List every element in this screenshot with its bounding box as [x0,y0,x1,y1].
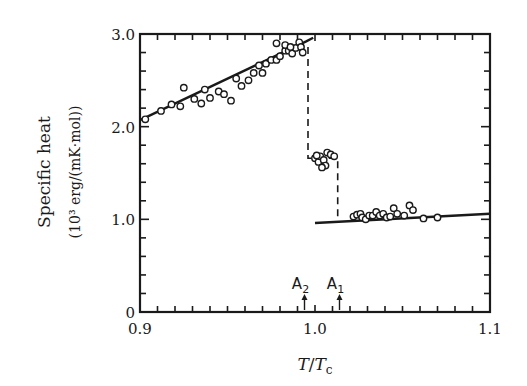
data-point [198,100,204,106]
transition-markers: A2A1 [292,275,344,310]
transition-label: A2 [292,275,309,296]
data-point [233,75,239,81]
x-tick-label: 0.9 [128,320,152,338]
data-point [394,211,400,217]
data-point [177,103,183,109]
data-point [300,49,306,55]
data-point [410,207,416,213]
x-axis-label: T/Tc [297,354,332,377]
data-point [251,70,257,76]
data-point [401,212,407,218]
fit-lines [140,38,490,223]
dashed-step-line [308,47,338,222]
plot-frame [140,34,490,312]
data-point [207,95,213,101]
data-point [228,98,234,104]
data-point [434,214,440,220]
data-point [238,83,244,89]
data-point [221,91,227,97]
data-point [319,164,325,170]
data-point [191,96,197,102]
data-point [287,44,293,50]
x-tick-label: 1.0 [303,320,327,338]
y-tick-label: 2.0 [111,119,135,137]
data-point [168,101,174,107]
y-axis-label: Specific heat [34,116,54,228]
data-points [142,39,441,222]
data-point [181,85,187,91]
data-point [256,62,262,68]
data-point [142,116,148,122]
data-point [245,77,251,83]
transition-label: A1 [327,275,344,296]
data-point [331,153,337,159]
x-axis-title: T/Tc [297,354,332,377]
data-point [273,40,279,46]
data-point [202,86,208,92]
data-point [158,108,164,114]
y-tick-label: 1.0 [111,211,135,229]
data-point [259,70,265,76]
data-point [277,53,283,59]
data-point [314,152,320,158]
data-point [420,215,426,221]
axis-ticks [140,34,490,312]
y-axis-units: (10³ erg/(mK·mol)) [67,106,83,239]
specific-heat-chart: Specific heat (10³ erg/(mK·mol)) 01.02.0… [0,0,527,386]
plot-border [140,34,490,312]
x-tick-label: 1.1 [478,320,502,338]
data-point [387,213,393,219]
y-tick-label: 3.0 [111,26,135,44]
y-axis-title: Specific heat (10³ erg/(mK·mol)) [34,106,83,239]
